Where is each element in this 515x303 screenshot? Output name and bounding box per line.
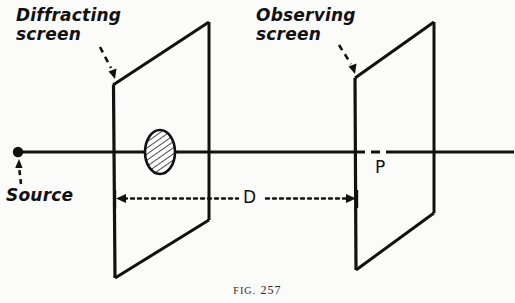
source-label: Source	[6, 186, 73, 205]
diffracting-screen-pointer-icon	[100, 47, 117, 79]
point-p-label: P	[375, 157, 385, 177]
aperture-icon	[145, 130, 175, 174]
figure-caption-prefix: FIG.	[233, 285, 256, 296]
observing-screen-label: Observing screen	[256, 6, 356, 44]
figure-caption: FIG. 257	[0, 283, 515, 298]
figure-caption-number: 257	[260, 283, 281, 297]
source-point-icon	[13, 147, 23, 157]
figure-container: Diffracting screen Observing screen Sour…	[0, 0, 515, 303]
diffracting-screen-label: Diffracting screen	[16, 6, 121, 44]
distance-label: D	[243, 187, 256, 207]
observing-screen-pointer-icon	[339, 45, 357, 74]
source-pointer-icon	[15, 159, 22, 184]
optics-diagram	[0, 0, 515, 303]
observing-screen	[355, 22, 434, 270]
